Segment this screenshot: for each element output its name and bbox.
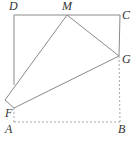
segment-c-g (119, 15, 120, 56)
label-d: D (8, 0, 18, 13)
fold-diagram: D M C G F A B (0, 0, 136, 142)
diagram-svg: D M C G F A B (0, 0, 136, 142)
segment-m-g (67, 15, 119, 56)
segment-b-g (119, 56, 120, 122)
segment-f-g (14, 56, 119, 108)
label-f: F (4, 106, 13, 120)
label-m: M (61, 0, 73, 13)
point-labels: D M C G F A B (4, 0, 131, 136)
label-a: A (4, 122, 13, 136)
label-b: B (118, 122, 126, 136)
label-g: G (122, 52, 131, 66)
solid-edges (5, 15, 120, 108)
label-c: C (122, 8, 131, 22)
